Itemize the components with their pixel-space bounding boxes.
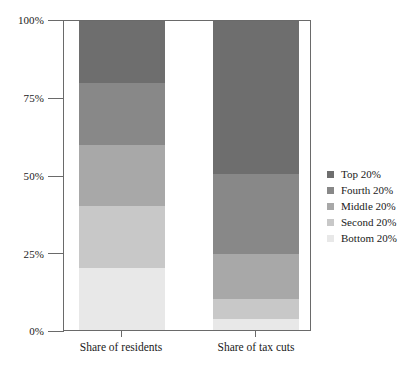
segment-taxcuts-bottom-20 — [213, 319, 299, 330]
y-axis-tick-50 — [48, 176, 64, 177]
legend-label-fourth-20: Fourth 20% — [341, 184, 393, 196]
legend-label-middle-20: Middle 20% — [341, 200, 396, 212]
legend-swatch-icon-top-20 — [327, 171, 334, 178]
segment-taxcuts-second-20 — [213, 299, 299, 319]
legend-swatch-icon-second-20 — [327, 219, 334, 226]
legend: Top 20% Fourth 20% Middle 20% Second 20%… — [327, 166, 397, 246]
legend-swatch-icon-fourth-20 — [327, 187, 334, 194]
legend-item-middle-20[interactable]: Middle 20% — [327, 198, 397, 214]
segment-residents-bottom-20 — [79, 268, 165, 330]
y-axis-tick-25 — [48, 253, 64, 254]
segment-taxcuts-middle-20 — [213, 254, 299, 299]
y-axis-label-50: 50% — [0, 171, 44, 182]
legend-label-top-20: Top 20% — [341, 168, 381, 180]
x-axis-label-residents: Share of residents — [61, 341, 181, 354]
y-axis-tick-0 — [48, 331, 64, 332]
segment-taxcuts-top-20 — [213, 21, 299, 174]
x-axis-label-taxcuts: Share of tax cuts — [196, 341, 316, 354]
x-axis-tick-residents — [121, 331, 122, 337]
y-axis-label-75: 75% — [0, 93, 44, 104]
legend-item-bottom-20[interactable]: Bottom 20% — [327, 230, 397, 246]
bar-share-of-residents[interactable] — [79, 21, 165, 330]
legend-item-top-20[interactable]: Top 20% — [327, 166, 397, 182]
segment-taxcuts-fourth-20 — [213, 174, 299, 254]
segment-residents-fourth-20 — [79, 83, 165, 145]
bar-share-of-tax-cuts[interactable] — [213, 21, 299, 330]
x-axis-tick-taxcuts — [255, 331, 256, 337]
y-axis-tick-75 — [48, 98, 64, 99]
y-axis-tick-100 — [48, 20, 64, 21]
legend-item-second-20[interactable]: Second 20% — [327, 214, 397, 230]
segment-residents-second-20 — [79, 206, 165, 268]
y-axis-label-0: 0% — [0, 326, 44, 337]
segment-residents-middle-20 — [79, 145, 165, 207]
legend-label-bottom-20: Bottom 20% — [341, 232, 397, 244]
y-axis-label-100: 100% — [0, 15, 44, 26]
legend-item-fourth-20[interactable]: Fourth 20% — [327, 182, 397, 198]
legend-swatch-icon-middle-20 — [327, 203, 334, 210]
y-axis-label-25: 25% — [0, 249, 44, 260]
segment-residents-top-20 — [79, 21, 165, 83]
stacked-bar-chart: 100% 75% 50% 25% 0% Share of resi — [0, 0, 420, 374]
legend-swatch-icon-bottom-20 — [327, 235, 334, 242]
legend-label-second-20: Second 20% — [341, 216, 396, 228]
plot-area — [63, 20, 311, 331]
